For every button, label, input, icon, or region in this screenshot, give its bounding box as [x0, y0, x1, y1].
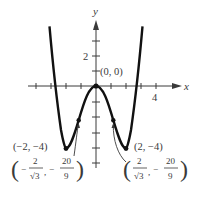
svg-text:): ) — [76, 156, 84, 182]
x-axis: 4 x — [28, 80, 189, 103]
svg-text:,: , — [148, 167, 150, 177]
point-inflection-left — [77, 118, 81, 122]
pointer-left — [74, 123, 80, 156]
svg-text:2: 2 — [33, 156, 38, 166]
svg-text:20: 20 — [62, 156, 72, 166]
point-inflection-right — [111, 118, 115, 122]
svg-text:20: 20 — [166, 156, 176, 166]
svg-text:(: ( — [123, 156, 131, 182]
svg-text:−: − — [153, 164, 158, 174]
svg-text:√3: √3 — [30, 171, 40, 181]
function-graph: 4 x 2 y (0, 0) (−2, −4) (2, −4) — [0, 0, 198, 200]
point-min-left — [64, 146, 69, 151]
label-inflection-right: ( 2 √3 , − 20 9 ) — [123, 156, 188, 182]
svg-text:√3: √3 — [134, 171, 144, 181]
point-origin — [93, 83, 98, 88]
svg-text:): ) — [180, 156, 188, 182]
label-origin: (0, 0) — [100, 66, 123, 78]
svg-text:2: 2 — [137, 156, 142, 166]
y-axis-arrow-icon — [93, 20, 99, 30]
label-min-left: (−2, −4) — [13, 141, 48, 153]
svg-text:,: , — [44, 167, 46, 177]
x-axis-arrow-icon — [172, 83, 182, 89]
point-min-right — [124, 146, 129, 151]
svg-text:(: ( — [11, 156, 19, 182]
label-min-right: (2, −4) — [134, 141, 163, 153]
y-axis-label: y — [92, 5, 98, 17]
svg-text:−: − — [49, 164, 54, 174]
x-tick-label-4: 4 — [152, 92, 158, 103]
label-inflection-left: ( − 2 √3 , − 20 9 ) — [11, 156, 84, 182]
svg-text:9: 9 — [64, 171, 69, 181]
svg-text:9: 9 — [168, 171, 173, 181]
y-tick-label-2: 2 — [83, 51, 88, 62]
svg-text:−: − — [21, 164, 26, 174]
x-axis-label: x — [183, 80, 189, 92]
